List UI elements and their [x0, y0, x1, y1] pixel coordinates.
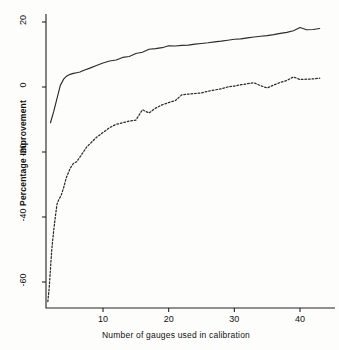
- series-dashed-line: [48, 77, 320, 302]
- y-tick-label: 20: [18, 7, 28, 33]
- chart-axes: [42, 14, 335, 312]
- x-tick-label: 20: [158, 314, 180, 324]
- y-axis-tick-marks: [42, 22, 46, 282]
- x-tick-label: 30: [223, 314, 245, 324]
- x-axis-tick-marks: [103, 308, 300, 312]
- x-tick-label: 40: [289, 314, 311, 324]
- x-axis-title: Number of gauges used in calibration: [46, 330, 306, 340]
- x-tick-label: 10: [92, 314, 114, 324]
- chart-plot-area: [0, 0, 339, 350]
- axis-spines: [46, 14, 335, 308]
- series-solid-line: [50, 28, 319, 123]
- y-tick-label: -40: [18, 202, 28, 228]
- y-tick-label: 0: [18, 72, 28, 98]
- y-tick-label: -60: [18, 267, 28, 293]
- chart-figure: Percentage Improvement Number of gauges …: [0, 0, 339, 350]
- y-tick-label: -20: [18, 137, 28, 163]
